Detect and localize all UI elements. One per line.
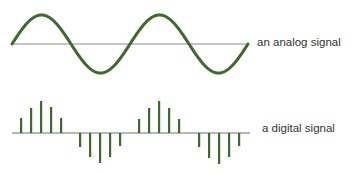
analog-signal-label: an analog signal [257,36,341,48]
sample-bar [198,133,200,147]
sample-bar [79,133,81,147]
sample-bar [228,133,230,157]
sample-bar [99,133,101,163]
sample-bar [50,107,52,133]
sample-bar [119,133,121,146]
sample-bar [208,133,210,158]
sample-bar [138,119,140,133]
sample-bar [109,133,111,157]
sample-bar [178,119,180,133]
sample-bar [168,108,170,133]
digital-signal-label: a digital signal [262,122,335,134]
signal-diagram [0,0,357,174]
sample-bar [60,118,62,133]
sample-bar [40,101,42,133]
sample-bar [30,108,32,133]
sample-bar [148,108,150,133]
sample-bar [89,133,91,157]
sample-bar [218,133,220,164]
sample-bar [238,133,240,146]
sample-bar [20,118,22,133]
sample-bar [158,101,160,133]
